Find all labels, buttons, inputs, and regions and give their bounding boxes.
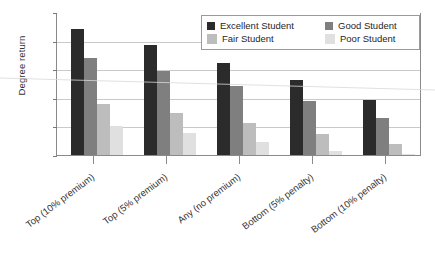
bar (217, 63, 230, 155)
bar (84, 58, 97, 155)
bar (402, 154, 415, 155)
legend-swatch-poor-student (325, 34, 335, 44)
chart-legend: Excellent Student Good Student Fair Stud… (201, 15, 420, 50)
bar (329, 151, 342, 155)
bar (376, 118, 389, 155)
legend-swatch-fair-student (207, 34, 217, 44)
bar (157, 71, 170, 155)
bar (256, 142, 269, 155)
bar-chart: Degree return Excellent Student Good Stu… (0, 0, 435, 264)
legend-item-poor-student: Poor Student (325, 32, 395, 45)
bar (183, 133, 196, 155)
x-category-label: Top (10% premium) (0, 171, 96, 264)
x-tick-mark (385, 156, 386, 164)
bar (230, 86, 243, 155)
bar (243, 123, 256, 155)
legend-item-fair-student: Fair Student (207, 32, 325, 45)
bar (71, 29, 84, 155)
bar (389, 144, 402, 155)
bar (303, 101, 316, 155)
x-category-label: Bottom (10% penalty) (253, 171, 387, 264)
bar (110, 126, 123, 155)
legend-label-poor-student: Poor Student (340, 32, 395, 45)
x-tick-mark (239, 156, 240, 164)
legend-swatch-excellent-student (207, 22, 215, 30)
legend-swatch-good-student (325, 22, 333, 30)
x-tick-mark (93, 156, 94, 164)
legend-item-excellent-student: Excellent Student (207, 19, 325, 32)
legend-item-good-student: Good Student (325, 19, 397, 32)
bar (97, 104, 110, 155)
bar (316, 134, 329, 155)
legend-row: Fair Student Poor Student (207, 32, 414, 45)
legend-label-good-student: Good Student (338, 19, 397, 32)
bar (170, 113, 183, 155)
bar (363, 100, 376, 155)
y-tick-mark (53, 156, 57, 157)
legend-label-excellent-student: Excellent Student (220, 19, 294, 32)
bar-group (130, 13, 203, 155)
legend-label-fair-student: Fair Student (222, 32, 274, 45)
y-axis-title: Degree return (16, 16, 27, 116)
bar (144, 45, 157, 155)
bar-group (57, 13, 130, 155)
x-tick-mark (312, 156, 313, 164)
legend-row: Excellent Student Good Student (207, 19, 414, 32)
bar (290, 80, 303, 155)
x-tick-mark (166, 156, 167, 164)
